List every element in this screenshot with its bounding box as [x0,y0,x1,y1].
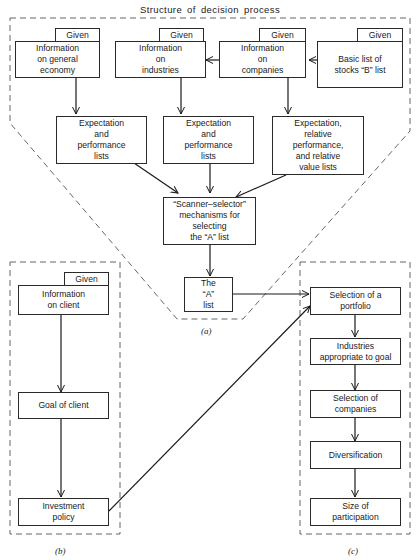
caption-c: (c) [348,546,358,556]
node-information-on-general-economy: Information on general economy [15,41,100,78]
node-investment-policy: Investment policy [18,498,109,526]
node-basic-list-of-stocks: Basic list of stocks “B” list [317,41,403,88]
diagram-title: Structure of decision process [0,4,420,15]
node-selection-of-portfolio: Selection of a portfolio [310,287,401,315]
node-expectation-performance-lists-1: Expectation and performance lists [56,116,147,164]
node-selection-of-companies: Selection of companies [310,390,401,418]
given-tab: Given [55,28,100,41]
node-expectation-performance-lists-2: Expectation and performance lists [163,116,254,164]
node-a-list: The “A” list [184,277,233,312]
given-tab: Given [64,272,109,285]
node-information-on-client: Information on client [18,285,109,315]
node-goal-of-client: Goal of client [18,392,109,419]
node-information-on-industries: Information on industries [115,41,206,78]
node-information-on-companies: Information on companies [219,41,306,78]
node-expectation-relative-value-lists: Expectation, relative performance, and r… [272,116,364,175]
node-industries-appropriate-to-goal: Industries appropriate to goal [310,338,401,365]
given-tab: Given [259,28,306,41]
given-tab: Given [357,28,403,41]
node-size-of-participation: Size of participation [310,498,401,526]
decision-process-diagram: Structure of decision process Given Info… [0,0,420,560]
caption-b: (b) [55,546,66,556]
given-tab: Given [159,28,204,41]
node-scanner-selector: “Scanner–selector” mechanisms for select… [163,197,256,245]
caption-a: (a) [201,326,212,336]
node-diversification: Diversification [310,441,401,469]
